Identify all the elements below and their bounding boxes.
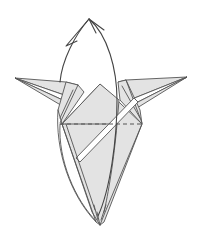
fold-arrowhead-left-barb xyxy=(66,19,89,46)
fold-arrow-left-curve xyxy=(60,19,89,82)
origami-diagram xyxy=(0,0,200,237)
